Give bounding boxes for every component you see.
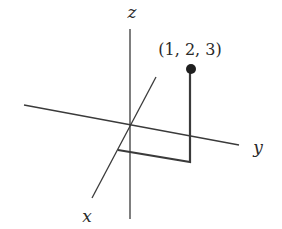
y-axis-line: [24, 105, 239, 145]
y-axis-label: y: [253, 139, 263, 156]
projection-path: [118, 69, 190, 162]
3d-coordinate-diagram: z y x (1, 2, 3): [0, 0, 282, 229]
point-marker: [186, 64, 196, 74]
point-coordinate-label: (1, 2, 3): [158, 42, 221, 58]
z-axis-label: z: [128, 4, 137, 21]
x-axis-label: x: [82, 208, 92, 225]
x-axis-line: [92, 77, 156, 198]
diagram-canvas: [0, 0, 282, 229]
